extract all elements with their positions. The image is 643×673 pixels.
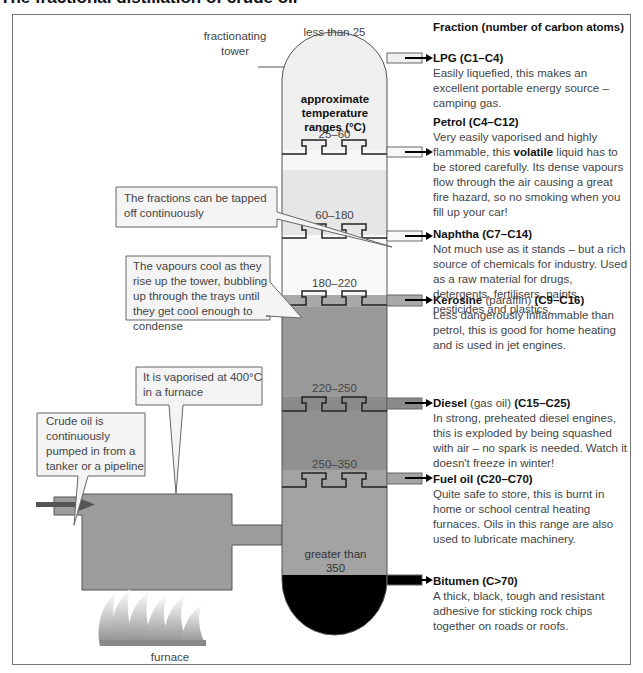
fraction-description: In strong, preheated diesel engines, thi… xyxy=(433,411,628,471)
fraction-name: Petrol xyxy=(433,116,466,128)
callout-crude-oil: Crude oil is continuously pumped in from… xyxy=(46,414,146,474)
fraction-bitumen: Bitumen (C>70) A thick, black, tough and… xyxy=(433,574,628,634)
fraction-description: Less dangerously inflammable than petrol… xyxy=(433,308,628,353)
fraction-column-header: Fraction (number of carbon atoms) xyxy=(433,21,624,33)
fraction-diesel: Diesel (gas oil) (C15–C25) In strong, pr… xyxy=(433,396,628,471)
fraction-carbons: (C1–C4) xyxy=(460,52,503,64)
fraction-description: Easily liquefied, this makes an excellen… xyxy=(433,66,628,111)
callout-vaporised: It is vaporised at 400°C in a furnace xyxy=(143,370,263,400)
temp-range-greater-than-350: greater than 350 xyxy=(298,547,373,575)
fraction-carbons: (C7–C14) xyxy=(482,228,532,240)
fraction-name: Fuel oil xyxy=(433,473,473,485)
furnace-label: furnace xyxy=(130,650,210,665)
fraction-fuel-oil: Fuel oil (C20–C70) Quite safe to store, … xyxy=(433,472,628,547)
fraction-carbons: (C15–C25) xyxy=(514,397,570,409)
fraction-description: Very easily vaporised and highly flammab… xyxy=(433,130,628,220)
fraction-name: Kerosine xyxy=(433,294,482,306)
temp-range-180-220: 180–220 xyxy=(282,276,387,290)
temp-range-less-than-25: less than 25 xyxy=(282,25,387,39)
furnace-box xyxy=(54,494,282,590)
temp-range-250-350: 250–350 xyxy=(282,457,387,471)
temp-range-60-180: 60–180 xyxy=(282,208,387,222)
fraction-alt-name: (paraffin) xyxy=(485,294,531,306)
fraction-name: Naphtha xyxy=(433,228,479,240)
fraction-carbons: (C20–C70) xyxy=(476,473,532,485)
fraction-name: LPG xyxy=(433,52,457,64)
callout-vapours: The vapours cool as they rise up the tow… xyxy=(133,259,273,334)
fraction-carbons: (C4–C12) xyxy=(469,116,519,128)
fraction-description: A thick, black, tough and resistant adhe… xyxy=(433,589,628,634)
fractionating-tower-label: fractionating tower xyxy=(200,29,270,59)
fraction-name: Bitumen xyxy=(433,575,479,587)
outlet-arrows xyxy=(405,54,433,584)
fraction-carbons: (C9–C16) xyxy=(534,294,584,306)
temp-range-25-60: 25–60 xyxy=(282,127,387,141)
desc-keyword: volatile xyxy=(514,146,554,158)
outlet-pipes xyxy=(387,53,422,585)
fraction-name: Diesel xyxy=(433,397,467,409)
fraction-petrol: Petrol (C4–C12) Very easily vaporised an… xyxy=(433,115,628,220)
fraction-kerosine: Kerosine (paraffin) (C9–C16) Less danger… xyxy=(433,293,628,353)
callout-tapped: The fractions can be tapped off continuo… xyxy=(124,191,274,221)
fraction-lpg: LPG (C1–C4) Easily liquefied, this makes… xyxy=(433,51,628,111)
fraction-alt-name: (gas oil) xyxy=(470,397,511,409)
fraction-description: Quite safe to store, this is burnt in ho… xyxy=(433,487,628,547)
temp-range-220-250: 220–250 xyxy=(282,381,387,395)
fraction-carbons: (C>70) xyxy=(482,575,517,587)
furnace-flames-icon xyxy=(99,589,206,646)
